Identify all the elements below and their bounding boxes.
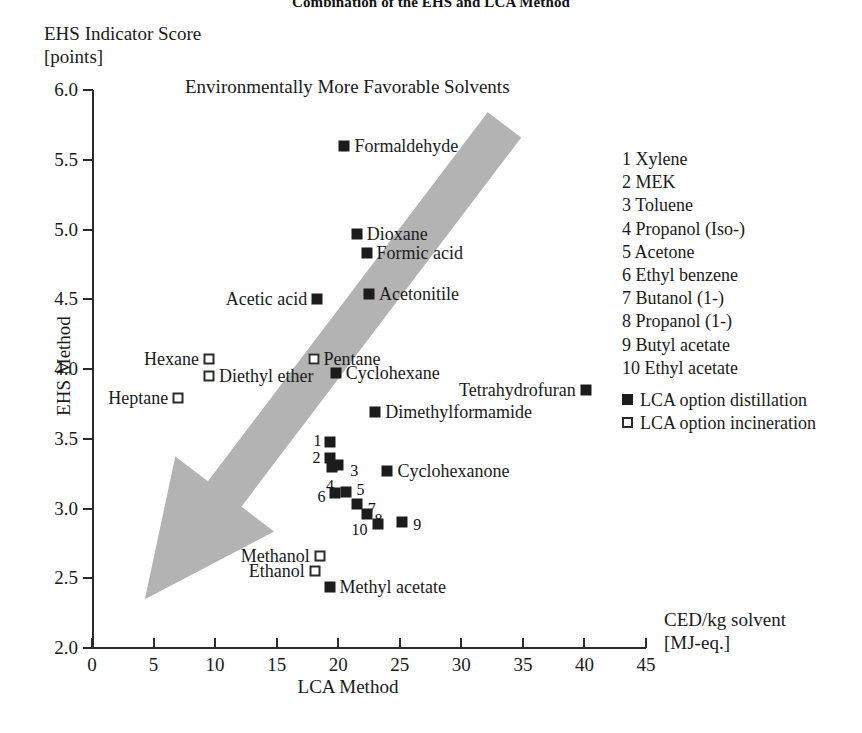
y-tick-label: 5.5 — [0, 149, 78, 171]
legend-numbered-item: 9 Butyl acetate — [622, 334, 816, 357]
legend-numbered-item: 5 Acetone — [622, 241, 816, 264]
legend: 1 Xylene2 MEK3 Toluene4 Propanol (Iso-)5… — [622, 148, 816, 435]
y-tick-label: 2.0 — [0, 637, 78, 659]
open-square-icon — [622, 417, 633, 428]
data-point-label: Dimethylformamide — [385, 402, 532, 423]
data-point-number: 9 — [413, 516, 421, 534]
x-tick-label: 15 — [267, 654, 286, 676]
x-tick-label: 40 — [575, 654, 594, 676]
data-point-marker — [324, 581, 335, 592]
x-tick-label: 35 — [513, 654, 532, 676]
data-point-label: Heptane — [108, 388, 168, 409]
x-tick — [214, 638, 216, 648]
legend-symbol-item: LCA option incineration — [622, 412, 816, 435]
data-point-marker — [340, 486, 351, 497]
data-point-marker — [361, 248, 372, 259]
data-point-marker — [203, 354, 214, 365]
data-point-marker — [361, 509, 372, 520]
x-tick — [276, 638, 278, 648]
y-tick — [83, 298, 93, 300]
y-tick-label: 2.5 — [0, 567, 78, 589]
legend-numbered-item: 6 Ethyl benzene — [622, 264, 816, 287]
y-axis-unit-line2: [points] — [44, 45, 201, 68]
x-tick — [399, 638, 401, 648]
legend-symbol-list: LCA option distillationLCA option incine… — [622, 389, 816, 435]
data-point-marker — [351, 228, 362, 239]
x-tick — [337, 638, 339, 648]
data-point-label: Hexane — [144, 349, 199, 370]
data-point-marker — [580, 384, 591, 395]
legend-numbered-item: 4 Propanol (Iso-) — [622, 218, 816, 241]
y-tick-label: 3.5 — [0, 428, 78, 450]
favorability-banner-text: Environmentally More Favorable Solvents — [185, 76, 510, 98]
y-tick-label: 4.0 — [0, 358, 78, 380]
data-point-number: 2 — [313, 449, 321, 467]
y-tick — [83, 508, 93, 510]
x-tick-label: 5 — [149, 654, 159, 676]
data-point-marker — [173, 393, 184, 404]
data-point-marker — [324, 436, 335, 447]
y-axis-unit-title: EHS Indicator Score [points] — [44, 22, 201, 68]
data-point-marker — [312, 294, 323, 305]
legend-numbered-item: 3 Toluene — [622, 194, 816, 217]
y-tick-label: 6.0 — [0, 79, 78, 101]
data-point-number: 10 — [352, 521, 368, 539]
y-tick — [83, 89, 93, 91]
y-tick-label: 3.0 — [0, 498, 78, 520]
data-point-label: Tetrahydrofuran — [459, 379, 576, 400]
data-point-label: Acetonitile — [379, 283, 459, 304]
data-point-label: Acetic acid — [226, 289, 307, 310]
data-point-marker — [382, 465, 393, 476]
data-point-marker — [327, 461, 338, 472]
filled-square-icon — [622, 394, 633, 405]
data-point-marker — [372, 518, 383, 529]
x-axis-unit-line1: CED/kg solvent — [664, 609, 786, 630]
legend-numbered-item: 1 Xylene — [622, 148, 816, 171]
y-axis-unit-line1: EHS Indicator Score — [44, 23, 201, 44]
data-point-number: 3 — [350, 462, 358, 480]
legend-numbered-item: 10 Ethyl acetate — [622, 357, 816, 380]
legend-numbered-item: 2 MEK — [622, 171, 816, 194]
x-tick — [91, 638, 93, 648]
legend-symbol-label: LCA option distillation — [640, 390, 807, 410]
x-tick — [522, 638, 524, 648]
data-point-marker — [314, 550, 325, 561]
x-axis-unit-title: CED/kg solvent [MJ-eq.] — [664, 608, 786, 654]
y-tick — [83, 159, 93, 161]
data-point-label: Diethyl ether — [219, 365, 313, 386]
data-point-marker — [330, 368, 341, 379]
data-point-marker — [397, 517, 408, 528]
y-tick — [83, 229, 93, 231]
y-tick — [83, 438, 93, 440]
data-point-number: 6 — [318, 488, 326, 506]
data-point-label: Cyclohexanone — [397, 460, 509, 481]
data-point-label: Ethanol — [249, 561, 305, 582]
data-point-label: Formic acid — [377, 243, 463, 264]
legend-symbol-item: LCA option distillation — [622, 389, 816, 412]
legend-numbered-item: 8 Propanol (1-) — [622, 310, 816, 333]
chart-title: Combination of the EHS and LCA Method — [0, 0, 862, 11]
data-point-label: Cyclohexane — [346, 363, 440, 384]
data-point-marker — [370, 407, 381, 418]
data-point-marker — [329, 488, 340, 499]
y-tick-label: 5.0 — [0, 219, 78, 241]
x-tick-label: 45 — [637, 654, 656, 676]
data-point-label: Methyl acetate — [340, 576, 446, 597]
legend-symbol-label: LCA option incineration — [640, 413, 816, 433]
data-point-label: Dioxane — [367, 223, 428, 244]
x-tick-label: 30 — [452, 654, 471, 676]
x-tick-label: 20 — [329, 654, 348, 676]
x-axis-unit-line2: [MJ-eq.] — [664, 631, 786, 654]
x-tick-label: 0 — [87, 654, 97, 676]
x-axis-line — [92, 647, 646, 649]
data-point-number: 5 — [357, 481, 365, 499]
x-tick — [153, 638, 155, 648]
legend-numbered-list: 1 Xylene2 MEK3 Toluene4 Propanol (Iso-)5… — [622, 148, 816, 380]
x-tick — [583, 638, 585, 648]
data-point-label: Formaldehyde — [354, 135, 458, 156]
y-tick-label: 4.5 — [0, 288, 78, 310]
x-tick — [460, 638, 462, 648]
data-point-number: 1 — [314, 432, 322, 450]
y-tick — [83, 368, 93, 370]
x-tick-label: 25 — [390, 654, 409, 676]
